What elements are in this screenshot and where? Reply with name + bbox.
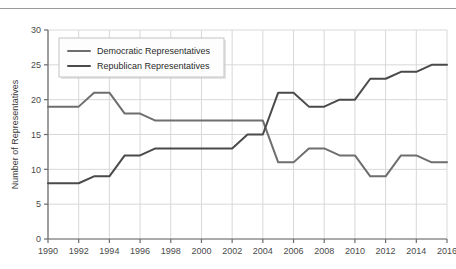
x-axis-tick-label: 2006 — [284, 246, 304, 256]
x-axis-tick-label: 2010 — [345, 246, 365, 256]
x-axis-tick-label: 1994 — [99, 246, 119, 256]
line-chart: 051015202530 199019921994199619982000200… — [0, 0, 456, 269]
x-axis-tick-label: 2012 — [376, 246, 396, 256]
data-series-layer — [48, 65, 447, 183]
y-axis-tick-label: 0 — [36, 234, 41, 244]
legend-label-2: Republican Representatives — [97, 61, 210, 71]
chart-legend: Democratic RepresentativesRepublican Rep… — [59, 38, 226, 79]
x-axis-tick-label: 2014 — [406, 246, 426, 256]
y-axis: 051015202530 — [31, 25, 48, 244]
y-axis-tick-label: 10 — [31, 165, 41, 175]
x-axis-tick-label: 1992 — [69, 246, 89, 256]
x-axis: 1990199219941996199820002002200420062008… — [38, 239, 456, 256]
legend-label-1: Democratic Representatives — [97, 46, 211, 56]
x-axis-tick-label: 1990 — [38, 246, 58, 256]
y-axis-tick-label: 20 — [31, 95, 41, 105]
x-axis-tick-label: 1996 — [130, 246, 150, 256]
x-axis-tick-label: 2000 — [191, 246, 211, 256]
y-axis-tick-label: 25 — [31, 60, 41, 70]
x-axis-tick-label: 1998 — [161, 246, 181, 256]
y-axis-tick-label: 30 — [31, 25, 41, 35]
y-axis-title: Number of Representatives — [10, 79, 20, 189]
y-axis-tick-label: 15 — [31, 130, 41, 140]
x-axis-tick-label: 2002 — [222, 246, 242, 256]
y-axis-title-text: Number of Representatives — [10, 79, 20, 189]
x-axis-tick-label: 2004 — [253, 246, 273, 256]
series-line-2 — [48, 65, 447, 183]
x-axis-tick-label: 2016 — [437, 246, 456, 256]
y-axis-tick-label: 5 — [36, 199, 41, 209]
x-axis-tick-label: 2008 — [314, 246, 334, 256]
chart-figure: 051015202530 199019921994199619982000200… — [0, 0, 456, 269]
